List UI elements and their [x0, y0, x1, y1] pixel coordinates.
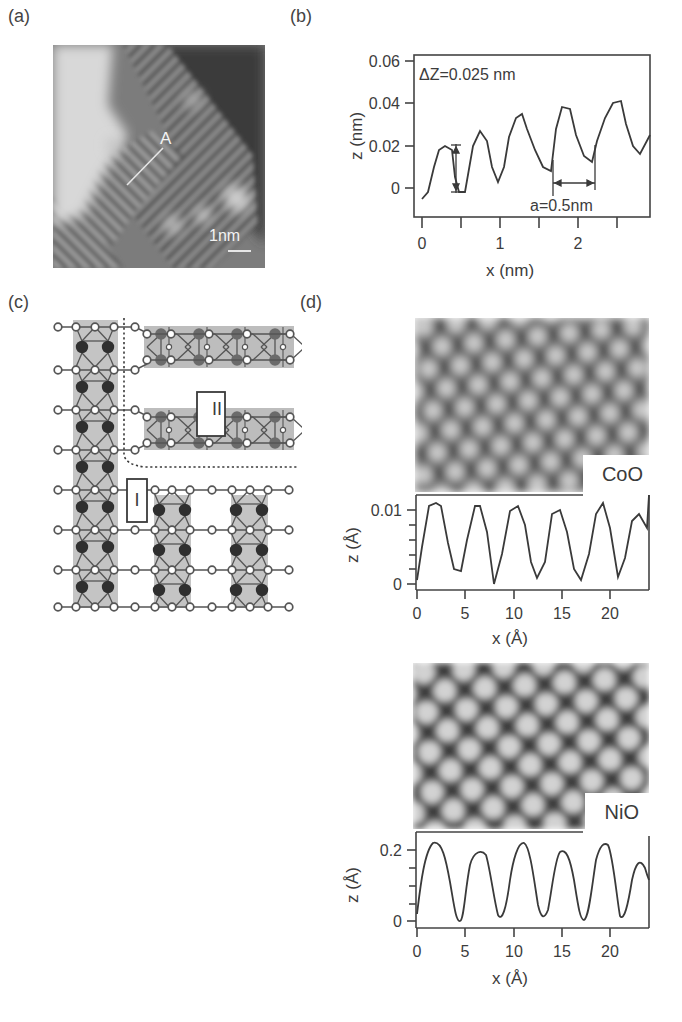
stm-image-coo: CoO [415, 318, 649, 492]
nio-tag: NiO [605, 801, 639, 824]
chart-b-xtick: 1 [496, 235, 505, 252]
chart-b-ytick: 0.04 [369, 95, 400, 112]
panel-a-label: (a) [8, 6, 30, 27]
chart-coo-ytick: 0 [393, 576, 402, 593]
stm-image-a: A 1nm [53, 45, 265, 268]
chart-nio-xtick: 10 [505, 943, 523, 960]
panel-d-label: (d) [300, 292, 322, 313]
chart-b-xtick: 2 [574, 235, 583, 252]
chart-b-ytick: 0.02 [369, 138, 400, 155]
chart-b-annotation-a: a=0.5nm [530, 197, 593, 214]
chart-coo-graphic: 0.01 0 0 5 10 15 20 x (Å) z (Å) [330, 490, 670, 650]
stm-image-nio: NiO [413, 663, 649, 829]
chart-nio-xtick: 5 [461, 943, 470, 960]
chart-nio-xtick: 0 [413, 943, 422, 960]
chart-nio-ylabel: z (Å) [343, 867, 362, 903]
coo-tag: CoO [602, 463, 643, 486]
chart-nio-series [417, 843, 649, 921]
marker-a: A [160, 129, 171, 149]
chart-coo-xtick: 15 [553, 605, 571, 622]
chart-coo-xlabel: x (Å) [492, 629, 528, 648]
lattice-diagram-c: II I [40, 310, 302, 620]
chart-nio-graphic: 0.2 0 0 5 10 15 20 x (Å) z (Å) [330, 826, 670, 1006]
chart-coo-series [417, 495, 649, 584]
chart-coo-ylabel: z (Å) [343, 527, 362, 563]
chart-coo-ytick: 0.01 [371, 502, 402, 519]
chart-nio: 0.2 0 0 5 10 15 20 x (Å) z (Å) [330, 826, 670, 1006]
chart-nio-xtick: 15 [553, 943, 571, 960]
lattice-diagram-c-graphic [40, 310, 302, 620]
scale-bar-label: 1nm [209, 227, 240, 245]
chart-nio-xlabel: x (Å) [492, 969, 528, 988]
box-i-text: I [127, 490, 147, 511]
chart-b-graphic: 0.06 0.04 0.02 0 0 1 2 x (nm) z (nm) ΔZ=… [330, 40, 670, 285]
chart-b-ytick: 0.06 [369, 53, 400, 70]
chart-coo: 0.01 0 0 5 10 15 20 x (Å) z (Å) [330, 490, 670, 650]
chart-b-annotation-dz: ΔZ=0.025 nm [419, 66, 516, 83]
box-ii-text: II [203, 399, 231, 420]
chart-coo-xtick: 20 [601, 605, 619, 622]
chart-nio-xtick: 20 [601, 943, 619, 960]
chart-nio-ytick: 0.2 [380, 842, 402, 859]
chart-b-ylabel: z (nm) [347, 112, 366, 160]
lattice-constant-marker [553, 145, 595, 196]
chart-b-ytick: 0 [391, 180, 400, 197]
chart-b: 0.06 0.04 0.02 0 0 1 2 x (nm) z (nm) ΔZ=… [330, 40, 670, 285]
chart-coo-xtick: 0 [413, 605, 422, 622]
chart-nio-ytick: 0 [393, 913, 402, 930]
chart-coo-xtick: 10 [505, 605, 523, 622]
panel-b-label: (b) [290, 6, 312, 27]
panel-c-label: (c) [8, 292, 29, 313]
chart-coo-xtick: 5 [461, 605, 470, 622]
chart-b-xtick: 0 [418, 235, 427, 252]
chart-b-xlabel: x (nm) [486, 261, 534, 280]
